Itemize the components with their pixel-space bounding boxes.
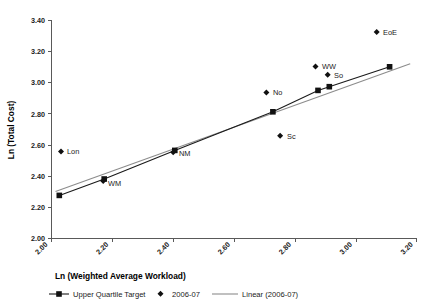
point-label-ww: WW [322,62,336,71]
legend-label-linear-2006-07: Linear (2006-07) [242,290,299,299]
point-label-so: So [334,71,343,80]
legend-label-2006-07: 2006-07 [172,290,200,299]
x-tick-label: 2.60 [216,240,232,256]
diamond-marker [58,149,64,155]
y-axis-ticks [48,21,52,239]
square-marker [387,64,393,70]
legend-item-linear-2006-07[interactable]: Linear (2006-07) [212,290,299,299]
point-label-nm: NM [179,149,191,158]
legend-diamond-marker [158,291,164,297]
y-tick-label: 3.20 [31,47,45,56]
diamond-marker [313,63,319,69]
point-label-wm: WM [108,179,121,188]
x-tick-label: 2.80 [277,240,293,256]
x-tick-label: 3.00 [338,240,354,256]
chart-canvas: 3.40 3.20 3.00 2.80 2.60 2.40 2.20 2.00 [0,0,437,308]
y-tick-label: 2.20 [31,203,45,212]
legend-square-marker [56,291,62,297]
square-marker [327,84,333,90]
point-label-sc: Sc [287,132,296,141]
diamond-marker [277,133,283,139]
x-axis-title: Ln (Weighted Average Workload) [55,271,186,281]
x-tick-label: 3.20 [399,240,415,256]
y-tick-label: 2.60 [31,141,45,150]
data-point-labels: Lon WM NM No Sc WW So EoE [67,28,397,188]
diamond-marker [374,29,380,35]
series-2006-07-markers [58,29,380,184]
point-label-no: No [273,88,282,97]
chart-legend: Upper Quartile Target 2006-07 Linear (20… [49,290,299,299]
y-tick-label: 2.40 [31,172,45,181]
y-axis-tick-labels: 3.40 3.20 3.00 2.80 2.60 2.40 2.20 2.00 [31,16,45,243]
point-label-lon: Lon [67,147,79,156]
x-axis-tick-labels: 2.00 2.20 2.40 2.60 2.80 3.00 3.20 [33,240,415,256]
y-tick-label: 3.40 [31,16,45,25]
x-tick-label: 2.20 [94,240,110,256]
square-marker [57,193,63,199]
chart-page: 3.40 3.20 3.00 2.80 2.60 2.40 2.20 2.00 [0,0,437,308]
x-axis-ticks [52,239,417,243]
y-tick-label: 3.00 [31,78,45,87]
point-label-eoe: EoE [383,28,397,37]
diamond-marker [325,72,331,78]
legend-label-upper-quartile-target: Upper Quartile Target [73,290,146,299]
scatter-chart-figure: 3.40 3.20 3.00 2.80 2.60 2.40 2.20 2.00 [0,0,437,308]
y-tick-label: 2.80 [31,110,45,119]
upper-quartile-target-line [59,67,389,196]
x-tick-label: 2.40 [155,240,171,256]
y-axis-title: Ln (Total Cost) [6,101,16,160]
legend-item-2006-07[interactable]: 2006-07 [158,290,200,299]
square-marker [270,109,276,115]
square-marker [315,88,321,94]
legend-item-upper-quartile-target[interactable]: Upper Quartile Target [49,290,146,299]
diamond-marker [263,90,269,96]
